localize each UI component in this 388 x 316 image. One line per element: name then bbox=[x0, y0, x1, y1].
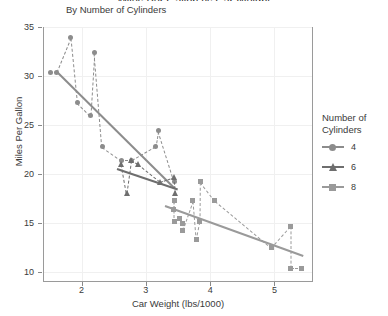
legend: Number of Cylinders 468 bbox=[322, 112, 388, 196]
gridline-vertical bbox=[146, 28, 147, 281]
y-tick-mark bbox=[38, 76, 42, 77]
y-tick-mark bbox=[38, 125, 42, 126]
gridline-horizontal bbox=[44, 174, 312, 175]
data-point-4 bbox=[100, 144, 105, 149]
y-tick-label: 35 bbox=[12, 23, 34, 32]
legend-key-square-icon bbox=[322, 181, 344, 193]
gridline-horizontal bbox=[44, 223, 312, 224]
data-point-4 bbox=[92, 50, 97, 55]
chart-subtitle: By Number of Cylinders bbox=[66, 4, 166, 15]
gridline-horizontal bbox=[44, 125, 312, 126]
data-point-6 bbox=[135, 161, 141, 167]
data-point-6 bbox=[118, 161, 124, 167]
y-tick-mark bbox=[38, 272, 42, 273]
legend-items: 468 bbox=[322, 138, 388, 196]
legend-item-8[interactable]: 8 bbox=[322, 178, 388, 196]
y-tick-mark bbox=[38, 27, 42, 28]
legend-item-6[interactable]: 6 bbox=[322, 158, 388, 176]
y-tick-label: 10 bbox=[12, 268, 34, 277]
x-tick-label: 3 bbox=[136, 286, 156, 295]
data-point-8 bbox=[177, 216, 182, 221]
x-tick-label: 2 bbox=[72, 286, 92, 295]
x-tick-label: 5 bbox=[264, 286, 284, 295]
series-connector-8 bbox=[199, 182, 200, 221]
x-axis-label: Car Weight (lbs/1000) bbox=[43, 298, 313, 309]
legend-key-triangle-icon bbox=[322, 161, 344, 173]
data-point-6 bbox=[172, 190, 178, 196]
legend-label-6: 6 bbox=[351, 163, 356, 172]
y-tick-mark bbox=[38, 174, 42, 175]
y-axis-label: Miles Per Gallon bbox=[13, 62, 24, 202]
legend-title-line1: Number of bbox=[322, 112, 388, 124]
data-point-4 bbox=[75, 100, 80, 105]
legend-item-4[interactable]: 4 bbox=[322, 138, 388, 156]
data-point-4 bbox=[48, 70, 53, 75]
legend-title-line2: Cylinders bbox=[322, 124, 388, 136]
legend-label-8: 8 bbox=[351, 183, 356, 192]
data-point-4 bbox=[88, 113, 93, 118]
data-point-8 bbox=[194, 237, 199, 242]
x-tick-label: 4 bbox=[200, 286, 220, 295]
data-point-8 bbox=[197, 219, 202, 224]
gridline-horizontal bbox=[44, 27, 312, 28]
series-connector-8 bbox=[290, 227, 291, 269]
data-point-8 bbox=[190, 198, 195, 203]
data-point-8 bbox=[172, 198, 177, 203]
legend-key-circle-icon bbox=[322, 141, 344, 153]
legend-label-4: 4 bbox=[351, 143, 356, 152]
gridline-vertical bbox=[210, 28, 211, 281]
data-point-8 bbox=[171, 207, 176, 212]
data-point-6 bbox=[124, 190, 130, 196]
data-point-8 bbox=[299, 266, 304, 271]
gridline-horizontal bbox=[44, 76, 312, 77]
data-point-8 bbox=[212, 198, 217, 203]
y-tick-label: 15 bbox=[12, 219, 34, 228]
y-tick-mark bbox=[38, 223, 42, 224]
chart-root: Miles Per Gallon vs Car Weight By Number… bbox=[0, 0, 388, 316]
data-point-8 bbox=[288, 266, 293, 271]
data-point-8 bbox=[288, 224, 293, 229]
data-point-8 bbox=[198, 179, 203, 184]
chart-title: Miles Per Gallon vs Car Weight bbox=[0, 0, 388, 1]
gridline-vertical bbox=[82, 28, 83, 281]
data-point-8 bbox=[180, 221, 185, 226]
data-point-6 bbox=[157, 179, 163, 185]
gridline-horizontal bbox=[44, 272, 312, 273]
data-point-6 bbox=[128, 157, 134, 163]
data-point-6 bbox=[171, 174, 177, 180]
data-point-8 bbox=[180, 228, 185, 233]
data-point-8 bbox=[269, 245, 274, 250]
data-point-4 bbox=[54, 70, 59, 75]
